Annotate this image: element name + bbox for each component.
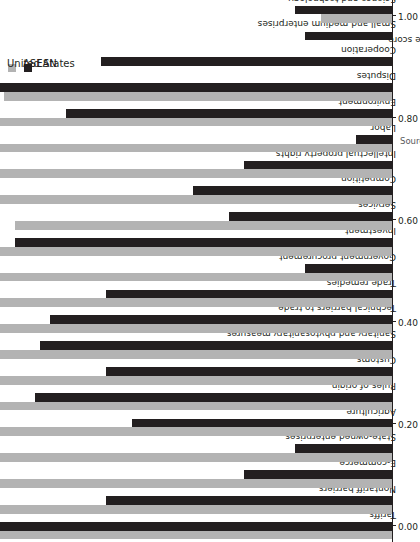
bar-united-states — [0, 427, 392, 436]
bar-united-states — [321, 14, 392, 23]
bar-asean — [106, 496, 392, 505]
bar-group: Investment — [36, 230, 392, 256]
bar-group: E-commerce — [36, 462, 392, 488]
bar-group: Small and medium enterprises — [36, 23, 392, 49]
bar-group: Intellectual property rights — [36, 152, 392, 178]
bar-united-states — [0, 350, 392, 359]
bar-asean — [40, 341, 392, 350]
axis-tick-label: 0.60 — [398, 216, 418, 226]
bar-group: Services — [36, 204, 392, 230]
bar-united-states — [0, 505, 392, 514]
bar-united-states — [4, 92, 392, 101]
bar-united-states — [0, 531, 392, 540]
bar-asean — [193, 186, 392, 195]
bar-asean — [244, 470, 392, 479]
bar-asean — [0, 522, 392, 531]
bar-united-states — [0, 324, 392, 333]
axis-tick-label: 0.00 — [398, 522, 418, 532]
bar-group: Trade remedies — [36, 281, 392, 307]
bar-asean — [66, 109, 392, 118]
axis-tick — [392, 219, 396, 220]
bar-group: Technical barriers to trade — [36, 307, 392, 333]
bar-united-states — [0, 376, 392, 385]
bar-asean — [132, 419, 392, 428]
axis-tick — [392, 117, 396, 118]
axis-tick — [392, 423, 396, 424]
bar-group: Sanitary and phytosanitary measures — [36, 333, 392, 359]
bar-united-states — [0, 144, 392, 153]
bar-asean — [50, 315, 392, 324]
bar-asean — [295, 6, 392, 15]
bar-asean — [305, 32, 392, 41]
bar-asean — [244, 161, 392, 170]
bar-group: Agriculture — [36, 410, 392, 436]
bar-group: Government procurement — [36, 256, 392, 282]
axis-tick — [392, 525, 396, 526]
bar-united-states — [0, 453, 392, 462]
axis-tick-label: 0.20 — [398, 420, 418, 430]
bar-united-states — [0, 118, 392, 127]
bar-group: Tariffs — [36, 514, 392, 540]
bar-asean — [0, 83, 392, 92]
axis-tick — [392, 321, 396, 322]
bar-united-states — [0, 402, 392, 411]
bar-united-states — [0, 298, 392, 307]
bar-asean — [15, 238, 392, 247]
axis-tick-label: 0.40 — [398, 318, 418, 328]
bar-asean — [101, 57, 392, 66]
bar-asean — [106, 367, 392, 376]
source-note: Source: Authors' estimates. — [400, 136, 420, 146]
bar-group: Labor — [36, 126, 392, 152]
bar-asean — [35, 393, 392, 402]
bar-united-states — [0, 479, 392, 488]
chart-canvas: United States ASEAN average score 1.000.… — [0, 0, 420, 542]
plot-area: 1.000.800.600.400.200.00 TariffsNontarif… — [36, 0, 392, 542]
category-label: Science and technology — [288, 0, 396, 4]
bar-group: Science and technology — [36, 0, 392, 23]
axis-tick-label: 1.00 — [398, 12, 418, 22]
bar-group: State-owned enterprises — [36, 436, 392, 462]
bar-group: Nontariff barriers — [36, 488, 392, 514]
bar-group: Cooperation — [36, 49, 392, 75]
axis-tick — [392, 15, 396, 16]
bar-group: Customs — [36, 359, 392, 385]
bar-united-states — [0, 169, 392, 178]
bar-united-states — [0, 247, 392, 256]
bar-united-states — [15, 221, 392, 230]
bar-group: Competition — [36, 178, 392, 204]
bar-asean — [106, 290, 392, 299]
bar-asean — [305, 264, 392, 273]
bar-asean — [295, 444, 392, 453]
bar-group: Environment — [36, 101, 392, 127]
bar-united-states — [0, 195, 392, 204]
bar-united-states — [0, 273, 392, 282]
axis-tick-label: 0.80 — [398, 114, 418, 124]
bar-asean — [229, 212, 392, 221]
bar-group: Rules of origin — [36, 385, 392, 411]
bar-asean — [356, 135, 392, 144]
bar-group: Disputes — [36, 75, 392, 101]
